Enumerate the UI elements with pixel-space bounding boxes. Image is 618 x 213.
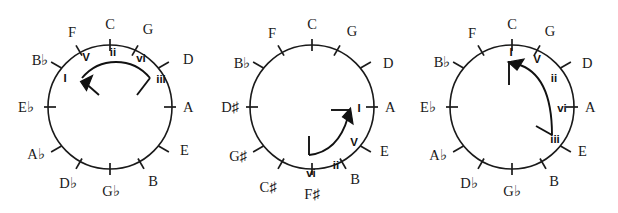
note-label-F: F [68,24,76,40]
tick-D [561,62,571,68]
tick-E [159,146,169,152]
note-label-A: A [585,99,596,115]
tick-Ab [51,146,61,152]
note-label-G: G [143,21,154,37]
degree-label-I: I [509,46,512,58]
arrow-head-icon [508,59,524,70]
note-label-A: A [183,99,194,115]
tick-Bb [453,62,463,68]
circle-of-fifths-figure: C G D A E B G♭ D♭ A♭ E♭ B♭ F I V ii vi i… [0,0,618,213]
degree-label-V: V [533,53,541,65]
note-label-B: B [549,173,559,189]
arrow-tail-stub [137,78,150,95]
note-label-Eb: E♭ [420,99,436,115]
note-label-Db: D♭ [460,175,477,191]
note-label-G: G [545,23,556,39]
tick-E [361,146,371,152]
degree-label-V: V [82,51,90,63]
progression-arrow-vi-to-I [309,108,353,155]
degree-label-vi: vi [306,167,316,179]
arrow-arc [309,117,348,155]
tick-D [361,62,371,68]
note-label-Cs: C♯ [260,179,278,195]
note-label-Eb: E♭ [18,99,34,115]
progression-arrow-iii-to-I [508,59,552,135]
note-label-C: C [105,16,115,32]
diagram-panel-c-major-alt: C G D A E B G♭ D♭ A♭ E♭ B♭ F I V ii vi i… [412,0,618,213]
note-label-B: B [148,173,158,189]
circle-of-fifths-ring [48,45,172,169]
note-label-A: A [385,99,396,115]
note-label-Bb: B♭ [434,54,451,70]
note-label-Bb: B♭ [32,52,49,68]
note-label-C: C [507,16,517,32]
note-label-Gb: G♭ [503,183,520,199]
note-label-G: G [347,23,358,39]
note-label-B: B [350,171,360,187]
degree-label-I: I [357,102,360,114]
note-label-E: E [380,143,389,159]
note-label-E: E [180,142,189,158]
note-label-D: D [183,51,193,67]
note-label-Ab: A♭ [429,147,446,163]
note-label-Fs: F♯ [304,186,320,202]
note-label-D: D [582,55,592,71]
tick-Bb [253,62,263,68]
diagram-panel-a-major: C G D A E B F♯ C♯ G♯ D♯ B♭ F I V ii vi [206,0,412,213]
note-label-Gs: G♯ [229,148,247,164]
note-label-F: F [268,25,276,41]
tick-D [159,62,169,68]
tick-E [561,146,571,152]
note-label-Bb: B♭ [234,55,251,71]
diagram-panel-c-major: C G D A E B G♭ D♭ A♭ E♭ B♭ F I V ii vi i… [0,0,206,213]
progression-arrow-iii-to-I [81,62,151,95]
arrow-tail-stub [536,126,552,135]
degree-label-I: I [63,72,66,84]
note-label-C: C [307,16,317,32]
tick-Ab [453,146,463,152]
arrow-arc [517,64,552,135]
note-label-D: D [383,55,393,71]
note-label-F: F [468,25,476,41]
note-label-Ab: A♭ [27,146,44,162]
degree-label-vi: vi [557,102,567,114]
degree-label-iii: iii [156,73,166,85]
degree-label-ii: ii [333,159,339,171]
tick-Bb [51,62,61,68]
note-label-E: E [578,143,587,159]
degree-label-V: V [350,136,358,148]
tick-Gs [253,146,263,152]
note-label-Ds: D♯ [221,99,239,115]
note-label-Gb: G♭ [102,183,119,199]
tick-marks [44,39,176,175]
note-label-Db: D♭ [59,175,76,191]
degree-label-ii: ii [110,46,116,58]
circle-of-fifths-ring [250,45,374,169]
degree-label-ii: ii [551,72,557,84]
degree-label-vi: vi [136,52,146,64]
